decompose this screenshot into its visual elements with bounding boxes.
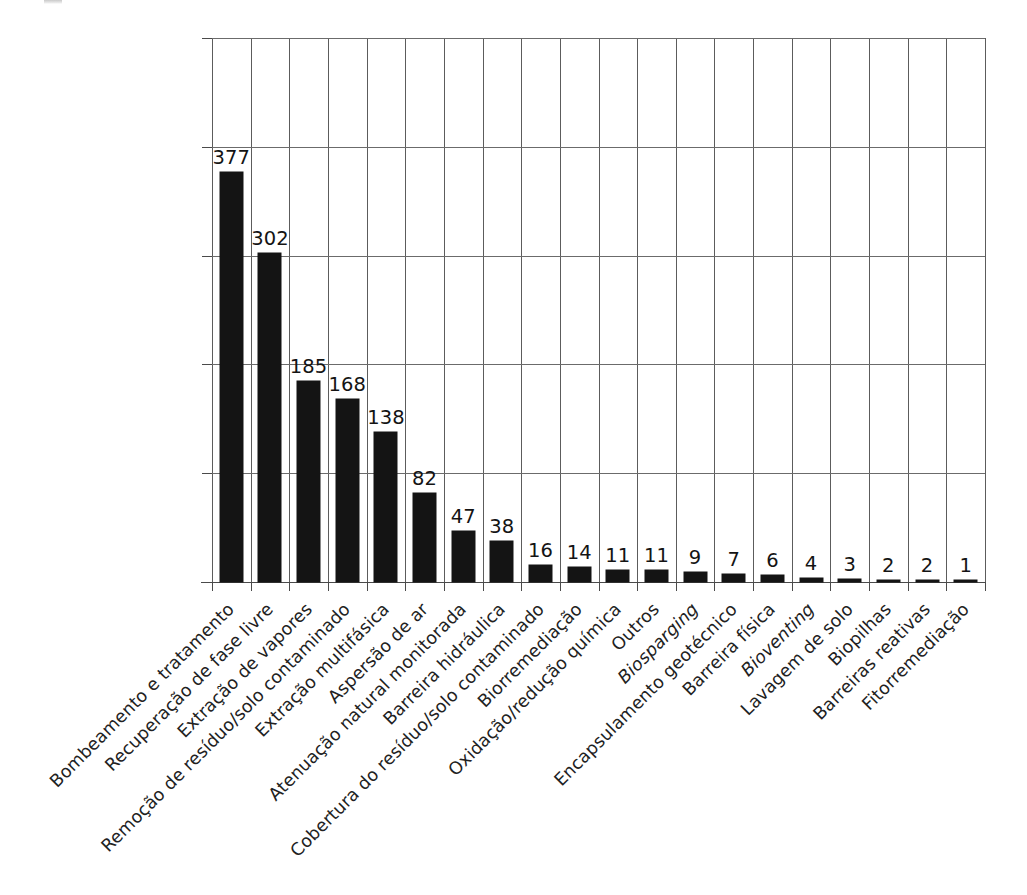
bar-value-label: 1 <box>936 554 996 577</box>
gridline-vertical <box>328 38 329 582</box>
x-axis-tick <box>676 582 677 591</box>
gridline-vertical <box>753 38 754 582</box>
bar-value-label: 138 <box>356 406 416 429</box>
gridline-vertical <box>637 38 638 582</box>
bar <box>722 574 745 582</box>
x-axis-tick <box>637 582 638 591</box>
gridline-vertical <box>599 38 600 582</box>
bar <box>568 567 591 582</box>
gridline-horizontal <box>212 256 985 257</box>
x-axis-tick <box>599 582 600 591</box>
y-axis-tick <box>202 473 212 474</box>
x-axis-category-label: Remoção de resíduo/solo contaminado <box>43 599 354 895</box>
bar <box>645 570 668 582</box>
bar <box>684 572 707 582</box>
gridline-vertical <box>405 38 406 582</box>
x-axis-category-label: Lavagem de solo <box>546 599 857 895</box>
x-axis-tick <box>444 582 445 591</box>
gridline-vertical <box>251 38 252 582</box>
gridline-vertical <box>289 38 290 582</box>
gridline-vertical <box>792 38 793 582</box>
x-axis-category-label: Barreira hidráulica <box>198 599 509 895</box>
bar-value-label: 302 <box>240 227 300 250</box>
x-axis-category-label: Biorremediação <box>275 599 586 895</box>
x-axis-category-label: Extração multifásica <box>82 599 393 895</box>
x-axis-tick <box>908 582 909 591</box>
gridline-vertical <box>946 38 947 582</box>
y-axis-tick <box>202 364 212 365</box>
y-axis-tick <box>202 582 212 583</box>
x-axis-tick <box>714 582 715 591</box>
bar <box>916 580 939 583</box>
x-axis-tick <box>946 582 947 591</box>
x-axis-category-label: Aspersão de ar <box>121 599 432 895</box>
x-axis-category-label: Extração de vapores <box>5 599 316 895</box>
x-axis-tick <box>521 582 522 591</box>
bar <box>954 580 977 583</box>
x-axis-tick <box>367 582 368 591</box>
gridline-horizontal <box>212 473 985 474</box>
x-axis-category-label: Biopilhas <box>584 599 895 895</box>
x-axis-category-label: Outros <box>352 599 663 895</box>
bar <box>529 565 552 582</box>
x-axis-category-label: Atenuação natural monitorada <box>159 599 470 895</box>
x-axis-category-label: Cobertura do resíduo/solo contaminado <box>236 599 547 895</box>
x-axis-category-label: Encapsulamento geotécnico <box>430 599 741 895</box>
x-axis-category-label: Recuperação de fase livre <box>0 599 277 895</box>
y-axis-tick <box>202 256 212 257</box>
x-axis-tick <box>753 582 754 591</box>
gridline-vertical <box>444 38 445 582</box>
y-axis-tick-labels: 0100200300400500 <box>0 38 192 582</box>
bar-value-label: 168 <box>317 373 377 396</box>
bar <box>606 570 629 582</box>
bar <box>452 531 475 582</box>
x-axis-tick <box>560 582 561 591</box>
x-axis-category-label: Biosparging <box>391 599 702 895</box>
bar-value-label: 82 <box>395 467 455 490</box>
x-axis-category-label: Barreira física <box>468 599 779 895</box>
x-axis-tick <box>289 582 290 591</box>
x-axis-tick <box>985 582 986 591</box>
x-axis-tick <box>830 582 831 591</box>
gridline-vertical <box>483 38 484 582</box>
bar-value-label: 38 <box>472 515 532 538</box>
gridline-vertical <box>521 38 522 582</box>
gridline-vertical <box>830 38 831 582</box>
bar <box>838 579 861 582</box>
bar-value-label: 377 <box>201 146 261 169</box>
x-axis-category-label: Bombeamento e tratamento <box>0 599 238 895</box>
x-axis-tick <box>869 582 870 591</box>
gridline-vertical <box>212 38 213 582</box>
bar <box>761 575 784 582</box>
gridline-vertical <box>985 38 986 582</box>
x-axis-tick <box>483 582 484 591</box>
gridline-vertical <box>560 38 561 582</box>
bar <box>374 432 397 582</box>
gridline-horizontal <box>212 147 985 148</box>
x-axis-category-label: Fitorremediação <box>662 599 973 895</box>
gridline-vertical <box>367 38 368 582</box>
x-axis-category-label: Barreiras reativas <box>623 599 934 895</box>
x-axis-tick <box>251 582 252 591</box>
gridline-horizontal <box>212 38 985 39</box>
bar <box>258 253 281 582</box>
x-axis-category-label: Bioventing <box>507 599 818 895</box>
bar-chart: 0100200300400500 37730218516813882473816… <box>0 0 1027 895</box>
x-axis-tick <box>212 582 213 591</box>
bar <box>297 381 320 582</box>
x-axis-tick <box>328 582 329 591</box>
bar <box>800 578 823 582</box>
gridline-vertical <box>869 38 870 582</box>
x-axis-category-label: Oxidação/redução química <box>314 599 625 895</box>
gridline-vertical <box>676 38 677 582</box>
gridline-vertical <box>714 38 715 582</box>
x-axis-tick <box>792 582 793 591</box>
y-axis-tick <box>202 38 212 39</box>
plot-area: 3773021851681388247381614111197643221 <box>212 38 985 582</box>
bar <box>877 580 900 583</box>
x-axis-tick <box>405 582 406 591</box>
gridline-vertical <box>908 38 909 582</box>
